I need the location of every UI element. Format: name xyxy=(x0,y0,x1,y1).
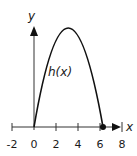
tick-label: 6 xyxy=(97,138,104,151)
x-axis-arrow-icon xyxy=(112,123,121,131)
x-axis-label: x xyxy=(125,120,134,134)
tick-label: 0 xyxy=(31,138,38,151)
graph-of-h: y x h(x) -2 0 2 4 6 8 xyxy=(0,0,137,156)
x-tick-labels: -2 0 2 4 6 8 xyxy=(7,138,126,151)
tick-label: 2 xyxy=(53,138,60,151)
curve-label: h(x) xyxy=(48,65,72,79)
root-dot xyxy=(100,124,106,130)
tick-label: 4 xyxy=(75,138,82,151)
tick-label: -2 xyxy=(7,138,18,151)
y-axis-label: y xyxy=(27,9,36,23)
y-axis-arrow-icon xyxy=(30,26,38,36)
tick-label: 8 xyxy=(119,138,126,151)
